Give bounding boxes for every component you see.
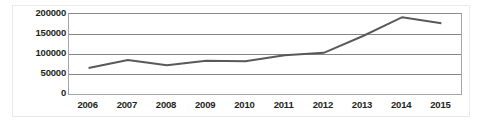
y-axis: 200000150000100000500000 — [14, 6, 66, 96]
y-axis-tick-label: 50000 — [14, 68, 66, 78]
plot-area — [68, 13, 462, 95]
x-axis-tick-label: 2008 — [146, 99, 186, 111]
x-axis-tick-label: 2006 — [68, 99, 108, 111]
y-axis-tick-label: 0 — [14, 88, 66, 98]
x-axis-tick-label: 2013 — [342, 99, 382, 111]
series-line — [69, 14, 461, 94]
x-axis: 2006200720082009201020112012201320142015 — [68, 99, 462, 113]
x-axis-tick-label: 2012 — [303, 99, 343, 111]
series-polyline — [89, 17, 442, 68]
line-chart: 200000150000100000500000 200620072008200… — [0, 0, 482, 124]
x-axis-tick-label: 2009 — [185, 99, 225, 111]
y-axis-tick-label: 100000 — [14, 48, 66, 58]
y-axis-tick-label: 150000 — [14, 28, 66, 38]
y-axis-tick-label: 200000 — [14, 8, 66, 18]
x-axis-tick-label: 2011 — [264, 99, 304, 111]
x-axis-tick-label: 2007 — [107, 99, 147, 111]
x-axis-tick-label: 2014 — [381, 99, 421, 111]
x-axis-tick-label: 2010 — [224, 99, 264, 111]
x-axis-tick-label: 2015 — [420, 99, 460, 111]
